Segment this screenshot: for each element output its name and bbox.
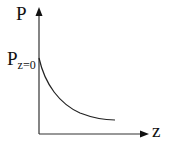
intercept-label-subscript: z=0 [18, 58, 36, 72]
intercept-label: Pz=0 [7, 48, 36, 70]
y-axis-label: P [16, 3, 27, 25]
x-axis-label: z [152, 120, 160, 142]
intercept-label-main: P [7, 48, 18, 69]
y-axis-arrow-icon [36, 7, 43, 16]
x-axis-arrow-icon [140, 131, 149, 138]
decay-curve [39, 58, 115, 120]
